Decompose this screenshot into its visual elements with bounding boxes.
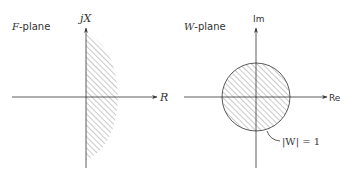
unit-circle-annotation: |W| = 1 bbox=[282, 136, 320, 148]
f-plane-title: F-plane bbox=[11, 21, 50, 32]
f-plane-panel: jX R F-plane bbox=[11, 12, 168, 168]
diagram-canvas: jX R F-plane Im Re W-plane |W| = 1 bbox=[0, 0, 351, 178]
w-plane-horizontal-axis-label: Re bbox=[329, 93, 341, 103]
f-plane-horizontal-axis-label: R bbox=[159, 91, 168, 104]
f-plane-vertical-axis-label: jX bbox=[77, 12, 92, 25]
w-plane-vertical-axis-label: Im bbox=[253, 14, 264, 24]
w-plane-title: W-plane bbox=[184, 21, 226, 32]
w-plane-panel: Im Re W-plane |W| = 1 bbox=[184, 14, 341, 168]
annotation-leader-line bbox=[267, 131, 280, 141]
